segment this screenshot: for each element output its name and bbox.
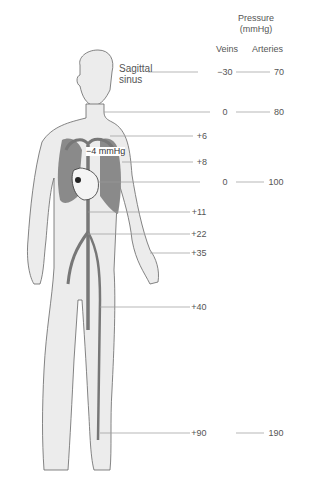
vein-value: +90 — [191, 429, 206, 438]
artery-value: 100 — [268, 178, 283, 187]
sagittal-line2: sinus — [119, 75, 152, 85]
pressure-title-line2: (mmHg) — [236, 25, 276, 34]
vein-value: 0 — [222, 108, 227, 117]
torso — [27, 104, 158, 470]
vein-value: +6 — [197, 132, 207, 141]
vein-value: −30 — [217, 68, 232, 77]
artery-value: 70 — [274, 68, 284, 77]
artery-value: 80 — [274, 108, 284, 117]
vein-value: +11 — [192, 208, 207, 217]
pressure-title-line1: Pressure — [236, 14, 276, 23]
vein-value: +8 — [197, 158, 207, 167]
veins-header: Veins — [216, 45, 238, 54]
head — [77, 50, 113, 106]
artery-value: 190 — [268, 429, 283, 438]
vein-value: 0 — [222, 178, 227, 187]
pressure-title: Pressure (mmHg) — [236, 14, 276, 34]
vein-value: +35 — [191, 249, 206, 258]
sagittal-sinus-label: Sagittal sinus — [119, 64, 152, 85]
vein-value: +40 — [191, 303, 206, 312]
intrathoracic-pressure-label: −4 mmHg — [86, 147, 125, 156]
vein-value: +22 — [191, 230, 206, 239]
sagittal-line1: Sagittal — [119, 64, 152, 74]
arteries-header: Arteries — [252, 45, 283, 54]
